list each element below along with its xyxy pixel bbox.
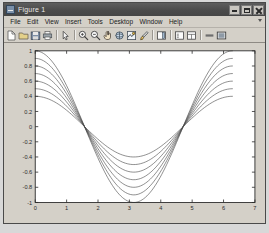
save-figure-icon[interactable] bbox=[30, 30, 41, 41]
window-controls bbox=[229, 5, 264, 15]
svg-text:7: 7 bbox=[253, 206, 256, 212]
menu-item-edit[interactable]: Edit bbox=[24, 17, 42, 27]
show-plot-tools-icon[interactable] bbox=[216, 30, 227, 41]
zoom-out-icon[interactable] bbox=[90, 30, 101, 41]
window-title: Figure 1 bbox=[18, 5, 229, 14]
menu-item-window[interactable]: Window bbox=[136, 17, 166, 27]
svg-text:-1: -1 bbox=[27, 200, 32, 206]
svg-text:0.6: 0.6 bbox=[24, 78, 32, 84]
open-file-icon[interactable] bbox=[18, 30, 29, 41]
toolbar-separator bbox=[170, 30, 172, 40]
zoom-in-icon[interactable] bbox=[78, 30, 89, 41]
minimize-button[interactable] bbox=[229, 5, 240, 15]
toolbar-separator bbox=[74, 30, 76, 40]
title-bar[interactable]: Figure 1 bbox=[4, 3, 265, 16]
maximize-button[interactable] bbox=[241, 5, 252, 15]
svg-text:6: 6 bbox=[222, 206, 225, 212]
edit-plot-arrow-icon[interactable] bbox=[60, 30, 71, 41]
svg-text:-0.8: -0.8 bbox=[23, 184, 33, 190]
new-figure-icon[interactable] bbox=[6, 30, 17, 41]
svg-text:1: 1 bbox=[29, 48, 32, 54]
menu-item-insert[interactable]: Insert bbox=[62, 17, 85, 27]
svg-text:-0.4: -0.4 bbox=[23, 154, 33, 160]
hide-plot-tools-icon[interactable] bbox=[204, 30, 215, 41]
toolbar-separator bbox=[56, 30, 58, 40]
menu-item-desktop[interactable]: Desktop bbox=[106, 17, 136, 27]
close-button[interactable] bbox=[253, 5, 264, 15]
figure-icon bbox=[6, 5, 15, 14]
svg-text:3: 3 bbox=[128, 206, 131, 212]
print-figure-icon[interactable] bbox=[42, 30, 53, 41]
svg-text:1: 1 bbox=[65, 206, 68, 212]
svg-text:2: 2 bbox=[96, 206, 99, 212]
insert-colorbar-icon[interactable] bbox=[156, 30, 167, 41]
toolbar-separator bbox=[200, 30, 202, 40]
svg-text:0.2: 0.2 bbox=[24, 109, 32, 115]
toolbar-separator bbox=[152, 30, 154, 40]
pan-icon[interactable] bbox=[102, 30, 113, 41]
svg-text:0: 0 bbox=[29, 124, 32, 130]
menu-item-file[interactable]: File bbox=[7, 17, 24, 27]
svg-text:0.4: 0.4 bbox=[24, 93, 32, 99]
data-cursor-icon[interactable] bbox=[126, 30, 137, 41]
insert-legend-icon[interactable] bbox=[174, 30, 185, 41]
screenshot-root: Figure 1 File Edit View Insert Tools Des… bbox=[0, 0, 269, 233]
rotate-3d-icon[interactable] bbox=[114, 30, 125, 41]
plot-container[interactable]: 01234567-1-0.8-0.6-0.4-0.200.20.40.60.81 bbox=[4, 43, 265, 223]
figure-canvas: 01234567-1-0.8-0.6-0.4-0.200.20.40.60.81 bbox=[4, 43, 265, 223]
svg-text:4: 4 bbox=[159, 206, 162, 212]
svg-text:0: 0 bbox=[34, 206, 37, 212]
svg-text:-0.2: -0.2 bbox=[23, 139, 33, 145]
cosine-family-plot: 01234567-1-0.8-0.6-0.4-0.200.20.40.60.81 bbox=[4, 43, 265, 223]
menu-item-help[interactable]: Help bbox=[166, 17, 186, 27]
svg-text:0.8: 0.8 bbox=[24, 63, 32, 69]
svg-text:-0.6: -0.6 bbox=[23, 169, 33, 175]
toolbar bbox=[4, 28, 265, 43]
plot-browser-icon[interactable] bbox=[186, 30, 197, 41]
figure-window: Figure 1 File Edit View Insert Tools Des… bbox=[3, 2, 266, 224]
svg-text:5: 5 bbox=[191, 206, 194, 212]
menu-item-tools[interactable]: Tools bbox=[84, 17, 106, 27]
menu-item-view[interactable]: View bbox=[41, 17, 61, 27]
menu-bar: File Edit View Insert Tools Desktop Wind… bbox=[4, 16, 265, 28]
menu-overflow-chevron-icon[interactable] bbox=[258, 19, 262, 22]
brush-icon[interactable] bbox=[138, 30, 149, 41]
